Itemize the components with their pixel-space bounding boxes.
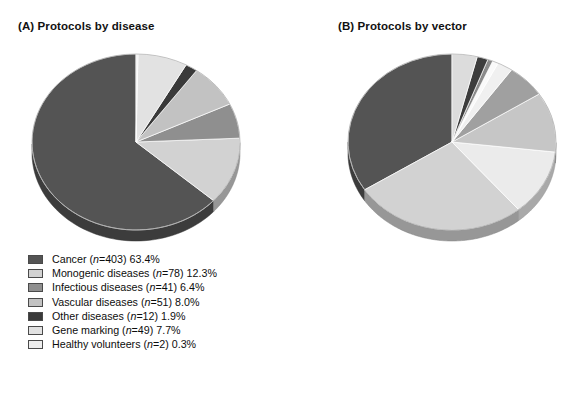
- legend-item[interactable]: Other diseases (n=12) 1.9%: [28, 309, 217, 323]
- legend-swatch: [28, 326, 43, 335]
- pie-chart-protocols-by-disease: [16, 50, 256, 245]
- pie-b-svg: [332, 50, 565, 245]
- legend-item[interactable]: Infectious diseases (n=41) 6.4%: [28, 281, 217, 295]
- pie-top-face: [32, 54, 240, 230]
- legend-swatch: [28, 298, 43, 307]
- legend-item-label: Monogenic diseases (n=78) 12.3%: [52, 268, 217, 279]
- legend-item-label: Healthy volunteers (n=2) 0.3%: [52, 339, 196, 350]
- pie-top-face: [348, 54, 556, 230]
- panel-protocols-by-vector: (B) Protocols by vector Retrovirus (n=21…: [290, 0, 565, 418]
- legend-item-label: Vascular diseases (n=51) 8.0%: [52, 297, 199, 308]
- pie-chart-protocols-by-vector: [332, 50, 565, 245]
- legend-item[interactable]: Vascular diseases (n=51) 8.0%: [28, 295, 217, 309]
- legend-item-label: Gene marking (n=49) 7.7%: [52, 325, 181, 336]
- legend-item[interactable]: Gene marking (n=49) 7.7%: [28, 323, 217, 337]
- legend-item[interactable]: Cancer (n=403) 63.4%: [28, 252, 217, 266]
- panel-a-title: (A) Protocols by disease: [18, 20, 155, 32]
- panel-protocols-by-disease: (A) Protocols by disease Cancer (n=403) …: [0, 0, 290, 418]
- legend-swatch: [28, 340, 43, 349]
- legend-item[interactable]: Healthy volunteers (n=2) 0.3%: [28, 338, 217, 352]
- panel-b-title: (B) Protocols by vector: [338, 20, 467, 32]
- legend-swatch: [28, 255, 43, 264]
- legend-swatch: [28, 312, 43, 321]
- legend-item-label: Other diseases (n=12) 1.9%: [52, 311, 185, 322]
- legend-item-label: Cancer (n=403) 63.4%: [52, 254, 160, 265]
- legend-item-label: Infectious diseases (n=41) 6.4%: [52, 282, 204, 293]
- legend-protocols-by-disease: Cancer (n=403) 63.4%Monogenic diseases (…: [28, 252, 217, 352]
- pie-a-svg: [16, 50, 256, 245]
- legend-item[interactable]: Monogenic diseases (n=78) 12.3%: [28, 266, 217, 280]
- legend-swatch: [28, 283, 43, 292]
- legend-swatch: [28, 269, 43, 278]
